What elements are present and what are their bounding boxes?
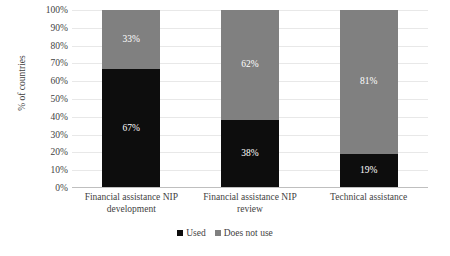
bar-segment: 38% bbox=[221, 120, 279, 188]
bar-group: 67%33% bbox=[102, 10, 160, 188]
bar-value-label: 67% bbox=[123, 124, 140, 134]
y-axis-tick-labels: 100%90%80%70%60%50%40%30%20%10%0% bbox=[24, 10, 68, 188]
x-axis-line bbox=[72, 187, 428, 188]
legend-label: Used bbox=[186, 228, 206, 238]
y-axis-tick-label: 40% bbox=[24, 112, 68, 122]
y-axis-tick-label: 10% bbox=[24, 165, 68, 175]
category-label-line: Technical assistance bbox=[309, 192, 428, 204]
y-axis-tick-label: 0% bbox=[24, 183, 68, 193]
y-axis-tick-label: 90% bbox=[24, 23, 68, 33]
y-axis-tick-label: 30% bbox=[24, 130, 68, 140]
x-axis-category-label: Financial assistance NIPdevelopment bbox=[72, 192, 191, 215]
y-axis-tick-label: 70% bbox=[24, 58, 68, 68]
legend-swatch-icon bbox=[215, 230, 221, 236]
plot-area: 67%33%38%62%19%81% bbox=[72, 10, 428, 188]
x-axis-category-label: Technical assistance bbox=[309, 192, 428, 204]
bar-group: 38%62% bbox=[221, 10, 279, 188]
y-axis-tick-label: 50% bbox=[24, 94, 68, 104]
x-axis-category-labels: Financial assistance NIPdevelopmentFinan… bbox=[72, 192, 428, 222]
bar-value-label: 33% bbox=[123, 35, 140, 45]
category-label-line: Financial assistance NIP bbox=[191, 192, 310, 204]
category-label-line: development bbox=[72, 204, 191, 216]
legend-item[interactable]: Does not use bbox=[215, 228, 273, 238]
legend-swatch-icon bbox=[177, 230, 183, 236]
y-axis-tick-label: 80% bbox=[24, 41, 68, 51]
x-axis-category-label: Financial assistance NIPreview bbox=[191, 192, 310, 215]
bar-group: 19%81% bbox=[340, 10, 398, 188]
category-label-line: review bbox=[191, 204, 310, 216]
chart-container: % of countries 100%90%80%70%60%50%40%30%… bbox=[0, 0, 450, 256]
bar-value-label: 38% bbox=[241, 149, 258, 159]
chart-legend: UsedDoes not use bbox=[0, 228, 450, 238]
bar-value-label: 81% bbox=[360, 77, 377, 87]
y-axis-tick-label: 60% bbox=[24, 76, 68, 86]
y-axis-tick-label: 20% bbox=[24, 147, 68, 157]
legend-label: Does not use bbox=[224, 228, 273, 238]
category-label-line: Financial assistance NIP bbox=[72, 192, 191, 204]
bar-segment: 62% bbox=[221, 10, 279, 120]
y-axis-tick-label: 100% bbox=[24, 5, 68, 15]
bar-segment: 81% bbox=[340, 10, 398, 154]
bar-value-label: 19% bbox=[360, 166, 377, 176]
bar-segment: 33% bbox=[102, 10, 160, 69]
bar-segment: 67% bbox=[102, 69, 160, 188]
bar-segment: 19% bbox=[340, 154, 398, 188]
legend-item[interactable]: Used bbox=[177, 228, 206, 238]
bar-value-label: 62% bbox=[241, 60, 258, 70]
